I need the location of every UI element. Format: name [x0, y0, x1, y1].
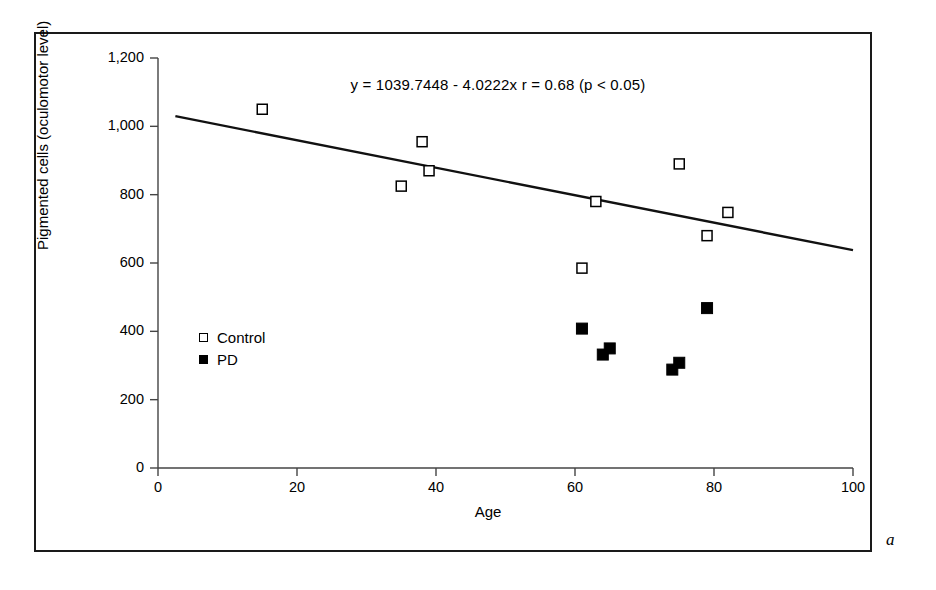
y-tick-label: 800 — [84, 186, 144, 202]
data-point-control — [577, 263, 587, 273]
x-axis-label: Age — [475, 503, 502, 520]
data-point-control — [674, 159, 684, 169]
x-tick-label: 20 — [267, 479, 327, 495]
y-tick-label: 1,200 — [84, 49, 144, 65]
axis-lines — [158, 58, 853, 468]
x-tick-label: 0 — [128, 479, 188, 495]
y-axis-label-wrap: Pigmented cells (oculomotor level) — [0, 0, 518, 40]
legend-label-control: Control — [217, 329, 265, 346]
y-tick-label: 600 — [84, 254, 144, 270]
data-point-pd — [674, 357, 685, 368]
filled-square-icon — [199, 355, 208, 364]
x-tick-label: 40 — [406, 479, 466, 495]
equation-annotation-wrap: y = 1039.7448 - 4.0222x r = 0.68 (p < 0.… — [0, 76, 936, 93]
tick-marks — [150, 58, 853, 476]
x-axis-label-wrap: Age — [0, 503, 936, 520]
y-tick-label: 1,000 — [84, 117, 144, 133]
regression-line — [175, 116, 853, 250]
x-tick-label: 80 — [684, 479, 744, 495]
y-tick-label: 0 — [84, 459, 144, 475]
open-square-icon — [199, 333, 208, 342]
legend-item-pd: PD — [199, 348, 265, 370]
data-point-control — [591, 197, 601, 207]
equation-annotation: y = 1039.7448 - 4.0222x r = 0.68 (p < 0.… — [350, 76, 645, 93]
data-point-control — [702, 231, 712, 241]
legend-item-control: Control — [199, 326, 265, 348]
y-tick-label: 400 — [84, 322, 144, 338]
data-point-control — [424, 166, 434, 176]
data-point-control — [417, 137, 427, 147]
figure-panel: Pigmented cells (oculomotor level) Age y… — [0, 0, 936, 590]
x-tick-label: 60 — [545, 479, 605, 495]
x-tick-label: 100 — [823, 479, 883, 495]
data-point-control — [723, 207, 733, 217]
panel-letter: a — [886, 530, 895, 550]
data-point-pd — [702, 303, 713, 314]
y-axis-label: Pigmented cells (oculomotor level) — [34, 21, 51, 250]
data-point-control — [257, 104, 267, 114]
data-point-pd — [576, 323, 587, 334]
data-point-pd — [604, 343, 615, 354]
data-points — [257, 104, 733, 375]
legend: Control PD — [199, 326, 265, 370]
y-tick-label: 200 — [84, 391, 144, 407]
legend-label-pd: PD — [217, 351, 238, 368]
data-point-control — [396, 181, 406, 191]
